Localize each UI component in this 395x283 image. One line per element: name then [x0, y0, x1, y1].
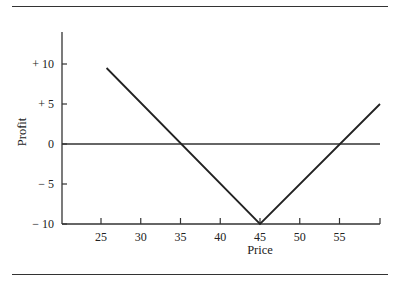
- x-tick-label: 40: [214, 230, 226, 244]
- x-tick-label: 50: [294, 230, 306, 244]
- profit-chart: + 10+ 50− 5− 1025303540455055PriceProfit: [0, 0, 395, 283]
- x-tick-label: 55: [334, 230, 346, 244]
- y-tick-label: 0: [48, 137, 54, 151]
- profit-line: [107, 68, 380, 224]
- x-tick-label: 30: [135, 230, 147, 244]
- y-tick-label: + 5: [38, 97, 54, 111]
- x-axis-label: Price: [247, 243, 273, 257]
- x-tick-label: 25: [95, 230, 107, 244]
- x-tick-label: 45: [254, 230, 266, 244]
- y-axis-label: Profit: [15, 117, 29, 146]
- y-tick-label: − 10: [32, 217, 54, 231]
- y-tick-label: − 5: [38, 177, 54, 191]
- x-tick-label: 35: [175, 230, 187, 244]
- y-tick-label: + 10: [32, 57, 54, 71]
